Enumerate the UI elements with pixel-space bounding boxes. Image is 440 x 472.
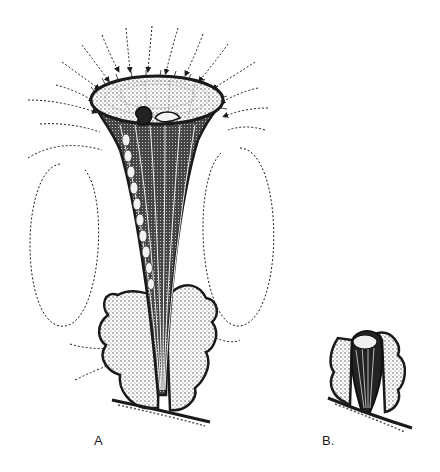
panel-label-b: B. <box>322 433 334 448</box>
panel-label-a: A <box>94 433 103 448</box>
figure-illustration <box>0 0 440 472</box>
organism-contracted-b <box>328 331 412 432</box>
substrate-a <box>112 400 210 422</box>
